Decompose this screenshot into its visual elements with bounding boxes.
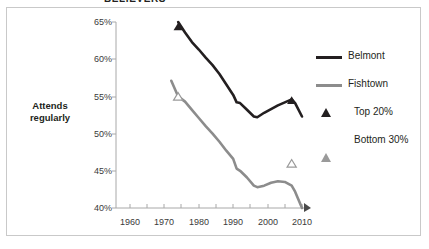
x-tick-label-1970: 1970 bbox=[146, 218, 182, 227]
chart-legend: Belmont Fishtown Top 20% Bottom 30% bbox=[316, 47, 424, 159]
legend-item-fishtown[interactable]: Fishtown bbox=[316, 75, 424, 103]
legend-label-belmont: Belmont bbox=[348, 50, 385, 61]
y-axis-title-line-1: Attends bbox=[14, 100, 86, 112]
x-tick-label-1980: 1980 bbox=[181, 218, 217, 227]
legend-line-swatch-fishtown bbox=[316, 84, 342, 87]
x-tick-label-1990: 1990 bbox=[215, 218, 251, 227]
legend-line-swatch-belmont bbox=[316, 56, 342, 59]
x-tick-label-2010: 2010 bbox=[284, 218, 320, 227]
y-axis-title: Attends regularly bbox=[14, 100, 86, 124]
y-tick-label-60: 60% bbox=[78, 55, 112, 64]
y-tick-label-45: 45% bbox=[78, 167, 112, 176]
y-tick-label-40: 40% bbox=[78, 204, 112, 213]
legend-item-bottom-30[interactable]: Bottom 30% bbox=[316, 131, 424, 159]
legend-label-fishtown: Fishtown bbox=[348, 78, 388, 89]
x-tick-label-2000: 2000 bbox=[250, 218, 286, 227]
legend-item-top-20[interactable]: Top 20% bbox=[316, 103, 424, 131]
y-tick-label-65: 65% bbox=[78, 18, 112, 27]
chart-title: BELIEVERS bbox=[0, 0, 270, 4]
y-axis-title-line-2: regularly bbox=[14, 112, 86, 124]
y-tick-label-50: 50% bbox=[78, 130, 112, 139]
legend-label-top-20: Top 20% bbox=[354, 106, 393, 117]
y-tick-label-55: 55% bbox=[78, 93, 112, 102]
legend-label-bottom-30: Bottom 30% bbox=[354, 134, 408, 145]
x-tick-label-1960: 1960 bbox=[112, 218, 148, 227]
triangle-filled-icon bbox=[321, 108, 331, 117]
triangle-open-icon bbox=[321, 136, 331, 162]
legend-item-belmont[interactable]: Belmont bbox=[316, 47, 424, 75]
